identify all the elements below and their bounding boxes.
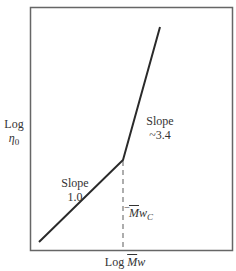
slope-high-annotation: Slope ~3.4: [140, 114, 180, 142]
x-axis-w: w: [137, 255, 145, 269]
x-axis-label: Log Mw: [100, 255, 150, 269]
critical-w: w: [139, 206, 147, 220]
slope-low-annotation: Slope 1.0: [55, 176, 95, 204]
x-axis-M: M: [127, 255, 137, 269]
y-axis-log-text: Log: [0, 117, 28, 131]
critical-M: M: [129, 206, 139, 220]
slope-low-line2: 1.0: [55, 190, 95, 204]
y-axis-label: Log η0: [0, 117, 28, 146]
slope-low-line1: Slope: [55, 176, 95, 190]
y-axis-eta: η0: [0, 131, 28, 146]
eta-subscript: 0: [15, 137, 20, 147]
x-axis-log-text: Log: [105, 255, 127, 269]
slope-high-line2: ~3.4: [140, 128, 180, 142]
critical-subscript: C: [147, 212, 153, 222]
critical-mw-label: ‾MwC: [125, 206, 153, 221]
plot-canvas: [0, 0, 236, 271]
eta-symbol: η: [9, 131, 15, 145]
slope-high-line1: Slope: [140, 114, 180, 128]
